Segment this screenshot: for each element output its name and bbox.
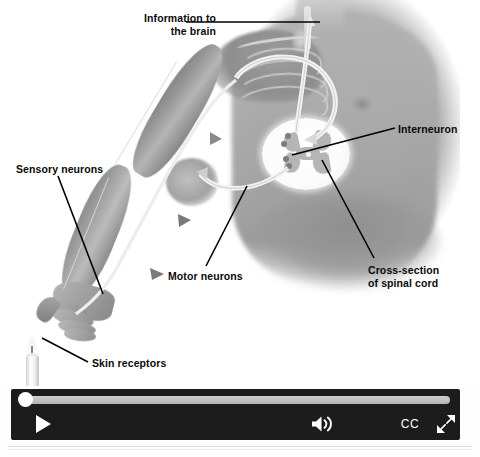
synapse-node — [281, 141, 287, 147]
volume-button[interactable] — [306, 409, 340, 439]
seek-bar[interactable] — [12, 390, 459, 409]
bottom-divider — [8, 446, 472, 447]
label-skin-receptors: Skin receptors — [92, 357, 166, 370]
label-cross-section-spinal-cord: Cross-section of spinal cord — [368, 264, 439, 290]
video-control-bar: CC — [12, 390, 459, 439]
fullscreen-button[interactable] — [432, 409, 460, 439]
seek-handle[interactable] — [18, 392, 33, 407]
media-player: Information to the brain Sensory neurons… — [0, 0, 480, 457]
synapse-node — [283, 156, 289, 162]
nipple-shading — [352, 96, 372, 112]
fullscreen-icon — [436, 414, 456, 434]
cc-icon: CC — [401, 417, 420, 431]
volume-icon — [310, 414, 336, 434]
play-button[interactable] — [30, 409, 56, 439]
leader-skin-receptors — [42, 338, 88, 362]
elbow — [166, 158, 218, 206]
direction-arrow — [178, 214, 191, 227]
captions-button[interactable]: CC — [394, 409, 426, 439]
diagram-canvas: Information to the brain Sensory neurons… — [0, 0, 480, 388]
vertebra — [292, 30, 310, 52]
central-canal — [306, 152, 311, 157]
control-buttons-row: CC — [12, 409, 459, 439]
label-interneuron: Interneuron — [398, 123, 457, 136]
play-icon — [36, 415, 51, 433]
direction-arrow — [150, 268, 164, 280]
seek-track[interactable] — [21, 396, 450, 404]
candle-body — [26, 356, 39, 386]
synapse-node — [286, 163, 292, 169]
label-information-to-brain: Information to the brain — [104, 12, 216, 37]
bottom-divider-soft — [8, 449, 472, 450]
synapse-node — [285, 133, 291, 139]
label-motor-neurons: Motor neurons — [168, 270, 243, 283]
label-sensory-neurons: Sensory neurons — [16, 163, 103, 176]
